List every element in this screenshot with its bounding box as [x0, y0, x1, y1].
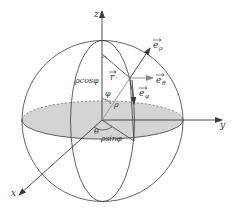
- svg-text:θ: θ: [162, 79, 166, 86]
- e-theta-label: e θ: [156, 74, 166, 87]
- z-label: z: [93, 9, 99, 19]
- rho-label: ρ: [113, 100, 119, 109]
- theta-label: θ: [94, 127, 99, 136]
- x-label: x: [11, 188, 16, 198]
- svg-text:ρ: ρ: [158, 44, 163, 52]
- r-vector-label: r: [109, 71, 116, 83]
- rho-sin-phi-label: ρsinφ: [100, 134, 122, 143]
- spherical-coordinates-diagram: z y x e ρ e θ e φ r ρcosφ φ ρ θ ρsinφ: [0, 0, 232, 214]
- right-angle-mark: [102, 56, 107, 59]
- svg-text:φ: φ: [145, 92, 150, 100]
- e-phi-label: e φ: [139, 87, 150, 101]
- phi-label: φ: [105, 89, 111, 98]
- svg-text:e: e: [153, 40, 158, 50]
- e-rho-label: e ρ: [153, 39, 163, 53]
- svg-text:e: e: [139, 88, 144, 98]
- y-label: y: [219, 120, 226, 130]
- e-rho-vector: [130, 48, 150, 78]
- svg-text:e: e: [156, 75, 161, 85]
- rho-cos-phi-label: ρcosφ: [74, 76, 99, 85]
